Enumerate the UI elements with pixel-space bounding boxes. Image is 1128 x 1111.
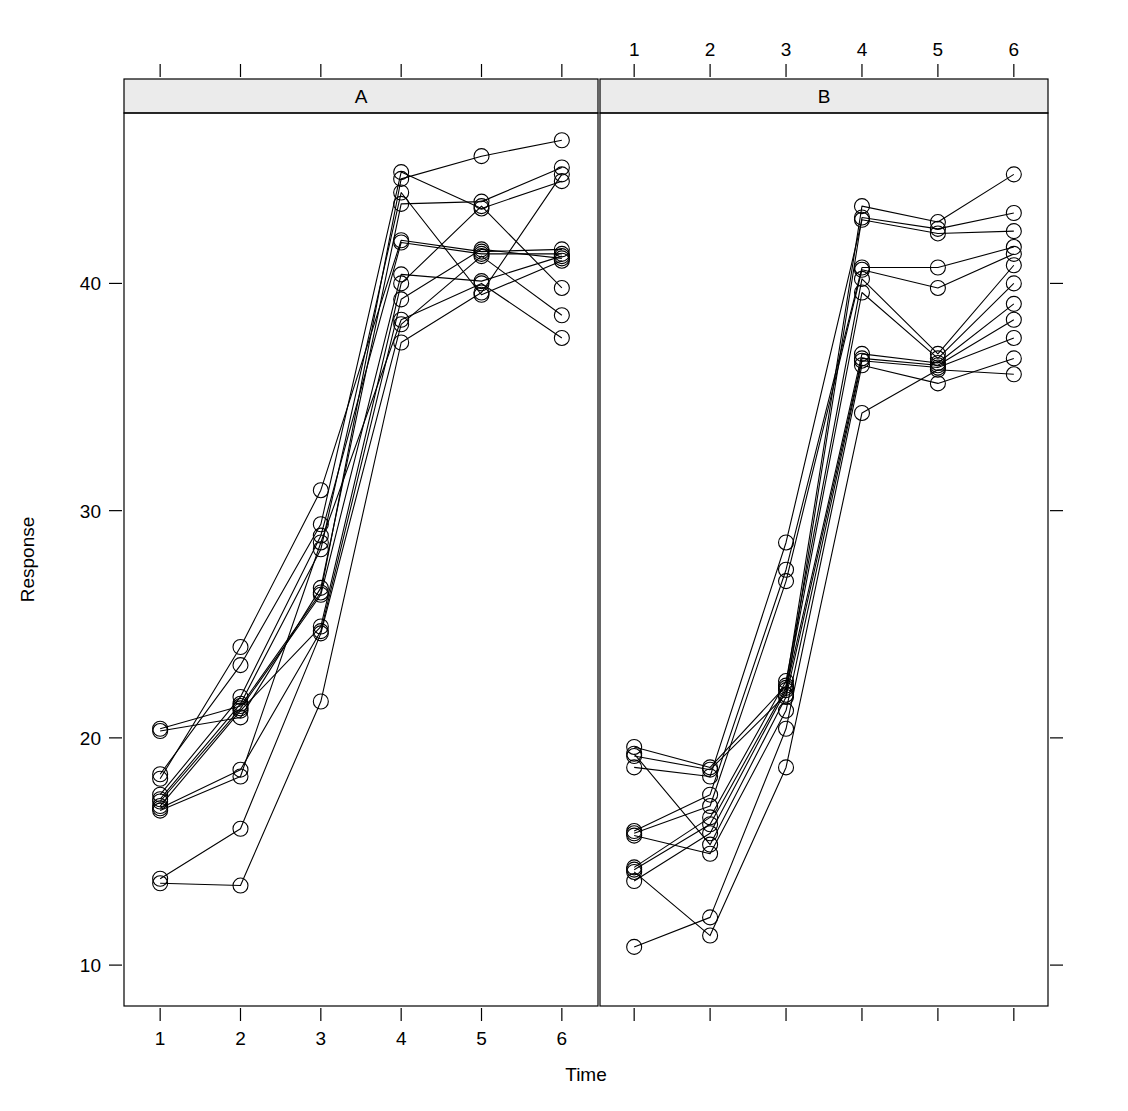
strip-label-A: A [355, 86, 368, 107]
line-B1 [634, 174, 1014, 767]
subject-line-B1 [627, 167, 1022, 775]
line-A6 [160, 193, 562, 800]
subject-line-A4 [153, 233, 570, 787]
subject-line-A2 [153, 160, 570, 739]
subject-line-B4 [627, 240, 1022, 839]
panel-border-B [600, 113, 1048, 1006]
subject-line-A9 [153, 242, 570, 816]
x-tick-label-A-5: 5 [476, 1028, 487, 1049]
line-B10 [634, 338, 1014, 854]
subject-line-B3 [627, 212, 1022, 784]
y-tick-label-40: 40 [80, 273, 101, 294]
x-tick-label-A-4: 4 [396, 1028, 407, 1049]
y-tick-label-30: 30 [80, 501, 101, 522]
line-B5 [634, 254, 1014, 833]
line-A7 [160, 256, 562, 801]
y-tick-label-20: 20 [80, 728, 101, 749]
x-axis-title: Time [565, 1064, 607, 1085]
y-axis-title: Response [17, 517, 38, 603]
x-tick-label-A-1: 1 [155, 1028, 166, 1049]
line-B3 [634, 220, 1014, 777]
subject-line-A10 [153, 276, 570, 818]
x-tick-label-B-1: 1 [629, 39, 640, 60]
subject-line-A11 [153, 249, 570, 887]
strip-label-B: B [818, 86, 831, 107]
subject-line-B7 [627, 276, 1022, 877]
subject-line-A7 [153, 249, 570, 809]
x-tick-label-A-2: 2 [235, 1028, 246, 1049]
x-tick-label-A-6: 6 [557, 1028, 568, 1049]
subject-line-B9 [627, 312, 1022, 852]
line-A8 [160, 206, 562, 806]
x-tick-label-B-2: 2 [705, 39, 716, 60]
subject-line-B11 [627, 351, 1022, 955]
trellis-plot: AB12345612345610203040TimeResponse [0, 0, 1128, 1111]
x-tick-label-A-3: 3 [316, 1028, 327, 1049]
x-tick-label-B-6: 6 [1009, 39, 1020, 60]
panel-border-A [124, 113, 598, 1006]
panel-data-A [153, 133, 570, 893]
line-B4 [634, 247, 1014, 831]
x-tick-label-B-5: 5 [933, 39, 944, 60]
y-tick-label-10: 10 [80, 955, 101, 976]
panel-data-B [627, 167, 1022, 955]
line-B6 [634, 265, 1014, 867]
subject-line-A5 [153, 235, 570, 802]
line-A4 [160, 240, 562, 779]
plot-root: AB12345612345610203040TimeResponse [0, 0, 1128, 1111]
subject-line-B5 [627, 246, 1022, 840]
subject-line-A12 [153, 167, 570, 893]
x-tick-label-B-3: 3 [781, 39, 792, 60]
line-A9 [160, 249, 562, 808]
subject-line-B10 [627, 330, 1022, 861]
x-tick-label-B-4: 4 [857, 39, 868, 60]
